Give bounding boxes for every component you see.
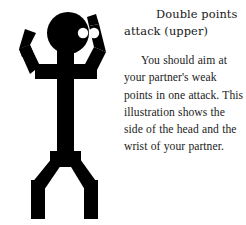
right-shin-shape bbox=[84, 180, 98, 219]
torso-shape bbox=[57, 47, 74, 159]
right-hand-shape bbox=[87, 14, 99, 26]
wrist-weak-point-marker bbox=[89, 28, 99, 38]
figure-with-caption-page: Double points attack (upper) You should … bbox=[0, 0, 246, 225]
illustration-panel bbox=[0, 0, 124, 225]
figure-title: Double points attack (upper) bbox=[124, 0, 244, 40]
head-weak-point-marker bbox=[78, 28, 88, 38]
left-shin-shape bbox=[31, 180, 45, 219]
figure-title-line-2: attack (upper) bbox=[124, 24, 208, 38]
figure-silhouette bbox=[19, 12, 106, 219]
figure-title-line-1: Double points bbox=[156, 7, 237, 21]
figure-description-paragraph: You should aim at your partner's weak po… bbox=[124, 40, 244, 156]
caption-text-column: Double points attack (upper) You should … bbox=[124, 0, 246, 225]
right-forearm-shape bbox=[89, 24, 106, 52]
stick-figure-illustration bbox=[0, 0, 124, 225]
